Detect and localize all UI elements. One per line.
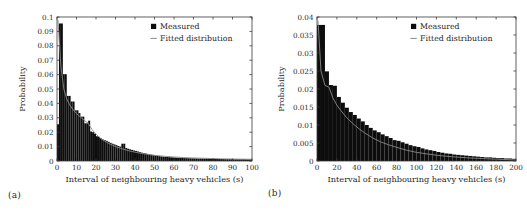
histogram-bar [317,25,321,161]
histogram-bar [389,138,393,161]
y-tick-label: 0 [49,157,54,166]
histogram-bar [178,158,180,161]
x-tick-label: 60 [372,163,382,172]
y-tick-label: 0.01 [297,121,313,130]
y-tick-label: 0.015 [293,103,314,112]
legend-measured-marker-icon [411,24,416,29]
histogram-bar [184,158,186,161]
x-axis-title: Interval of neighbouring heavy vehicles … [66,174,244,184]
histogram-bar [405,144,409,161]
histogram-bar [102,139,104,161]
histogram-bar [84,123,86,161]
legend-measured-label: Measured [160,22,200,31]
histogram-bar [413,146,417,161]
x-tick-label: 50 [150,163,160,172]
histogram-bar [106,141,108,161]
histogram-bar [353,115,357,161]
histogram-bar [444,153,448,161]
histogram-bar [80,117,82,161]
histogram-bar [151,155,153,161]
x-tick-label: 140 [449,163,463,172]
y-axis-title: Probability [17,66,27,112]
y-tick-label: 0.03 [297,49,313,58]
histogram-bar [381,134,385,161]
histogram-bar [164,157,166,161]
histogram-bar [369,128,373,161]
y-tick-label: 0.005 [293,139,314,148]
histogram-bar [166,157,168,161]
x-tick-label: 160 [469,163,483,172]
histogram-bar [385,136,389,161]
y-tick-label: 0.025 [293,67,314,76]
histogram-bar [349,112,353,161]
x-axis-title: Interval of neighbouring heavy vehicles … [328,174,506,184]
legend-fitted-label: Fitted distribution [420,34,492,43]
histogram-bar [104,140,106,161]
histogram-bar [448,154,452,161]
histogram-bar [170,157,172,161]
y-tick-label: 0.09 [37,27,53,36]
x-tick-label: 90 [228,163,238,172]
histogram-bar [420,148,424,161]
subfigure-label-a: (a) [8,190,21,200]
x-tick-label: 100 [245,163,259,172]
histogram-bar [121,144,123,161]
histogram-bar [123,144,125,161]
legend-fitted-label: Fitted distribution [160,34,232,43]
x-tick-label: 200 [509,163,523,172]
histogram-bar [75,110,77,161]
histogram-bar [357,119,361,161]
x-tick-label: 0 [315,163,320,172]
histogram-bar [460,155,464,161]
x-tick-label: 20 [332,163,342,172]
y-tick-label: 0.1 [42,13,53,22]
histogram-bar [160,156,162,161]
y-tick-label: 0.07 [37,56,53,65]
y-tick-label: 0.05 [37,85,53,94]
histogram-bar [156,156,158,161]
histogram-bar [112,144,114,161]
x-tick-label: 20 [91,163,101,172]
histogram-bar [86,123,88,161]
x-tick-label: 60 [169,163,179,172]
histogram-bar [168,157,170,161]
histogram-bar [325,71,329,161]
histogram-bar [401,142,405,161]
histogram-bar [424,149,428,161]
histogram-bar [428,150,432,161]
histogram-bar [436,152,440,161]
legend-measured-label: Measured [420,22,460,31]
subfigure-label-b: (b) [268,188,281,198]
histogram-bar [149,154,151,161]
x-tick-label: 10 [72,163,82,172]
histogram-bar [77,110,79,161]
histogram-bar [452,155,456,161]
histogram-bar [361,121,365,161]
histogram-bar [397,141,401,161]
histogram-chart-b: 02040608010012014016018020000.0050.010.0… [264,0,527,214]
x-tick-label: 80 [208,163,218,172]
y-axis-title: Probability [276,66,286,112]
y-tick-label: 0.04 [297,13,313,22]
histogram-bar [464,156,468,161]
x-tick-label: 0 [55,163,60,172]
histogram-bar [333,86,337,161]
x-tick-label: 120 [430,163,444,172]
histogram-bar [65,74,67,161]
histogram-bar [162,157,164,161]
histogram-bar [110,143,112,161]
histogram-bar [432,151,436,161]
histogram-bar [417,147,421,161]
histogram-bar [90,131,92,161]
y-tick-label: 0.02 [297,85,313,94]
histogram-bar [96,136,98,161]
histogram-bar [71,102,73,161]
histogram-bar [365,125,369,161]
histogram-bar [468,156,472,161]
x-tick-label: 30 [111,163,121,172]
y-tick-label: 0.04 [37,99,53,108]
histogram-bar [321,25,325,161]
histogram-bar [94,134,96,161]
x-tick-label: 80 [392,163,402,172]
histogram-bar [78,113,80,161]
